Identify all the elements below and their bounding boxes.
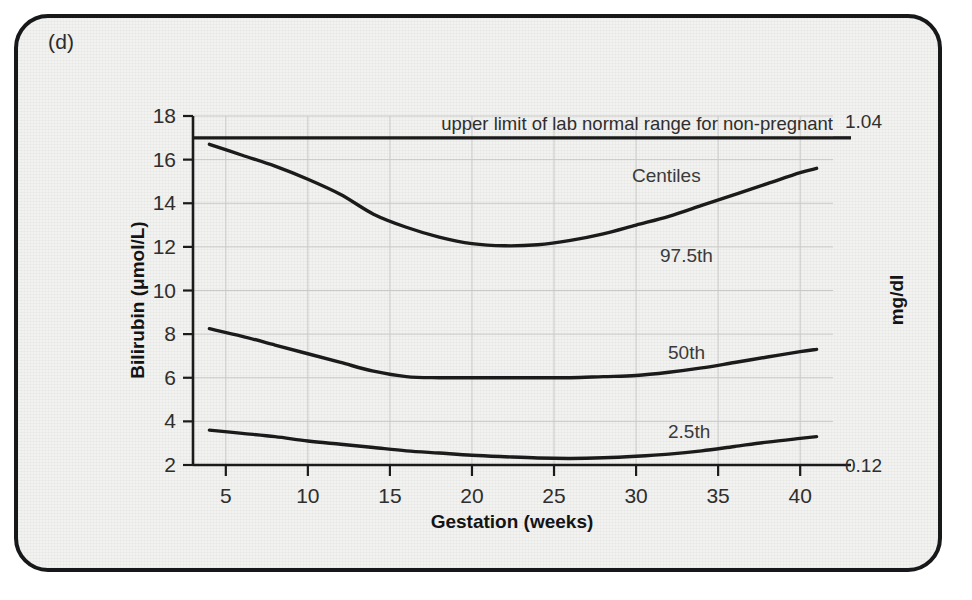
y-axis-tick-labels: 24681012141618 <box>153 104 177 476</box>
x-tick-label: 10 <box>296 484 319 507</box>
x-tick-label: 5 <box>220 484 232 507</box>
centile-curve-50th <box>209 329 816 378</box>
x-tick-label: 20 <box>460 484 483 507</box>
y-tick-label: 6 <box>164 366 176 389</box>
y-tick-label: 10 <box>153 279 176 302</box>
secondary-y-axis-title: mg/dl <box>886 275 907 326</box>
horizontal-gridlines <box>193 116 833 421</box>
series-label-50th: 50th <box>668 342 705 363</box>
y-axis-ticks <box>183 116 193 465</box>
x-tick-label: 35 <box>706 484 729 507</box>
y-axis-title: Bilirubin (μmol/L) <box>127 221 148 378</box>
y-tick-label: 4 <box>164 409 176 432</box>
centile-curve-2-5th <box>209 430 816 458</box>
y-tick-label: 8 <box>164 322 176 345</box>
upper-limit-annotation: upper limit of lab normal range for non-… <box>441 113 833 134</box>
screenshot-root: (d) 24681012141618 510152025303540 Bilir… <box>0 0 972 600</box>
y-tick-label: 16 <box>153 148 176 171</box>
series-label-2-5th: 2.5th <box>668 421 710 442</box>
y-tick-label: 12 <box>153 235 176 258</box>
x-tick-label: 25 <box>542 484 565 507</box>
bilirubin-centile-chart: 24681012141618 510152025303540 Bilirubin… <box>0 0 972 600</box>
x-axis-tick-labels: 510152025303540 <box>220 484 812 507</box>
centile-curves <box>209 144 816 458</box>
series-label-97-5th: 97.5th <box>660 245 713 266</box>
x-tick-label: 40 <box>788 484 811 507</box>
x-tick-label: 30 <box>624 484 647 507</box>
y-tick-label: 18 <box>153 104 176 127</box>
chart-svg: 24681012141618 510152025303540 Bilirubin… <box>0 0 972 600</box>
centiles-legend-title: Centiles <box>632 165 701 186</box>
secondary-axis-bottom-value: 0.12 <box>845 455 882 476</box>
y-tick-label: 14 <box>153 191 177 214</box>
y-tick-label: 2 <box>164 453 176 476</box>
secondary-axis-top-value: 1.04 <box>845 111 882 132</box>
x-axis-title: Gestation (weeks) <box>431 511 594 532</box>
x-tick-label: 15 <box>378 484 401 507</box>
